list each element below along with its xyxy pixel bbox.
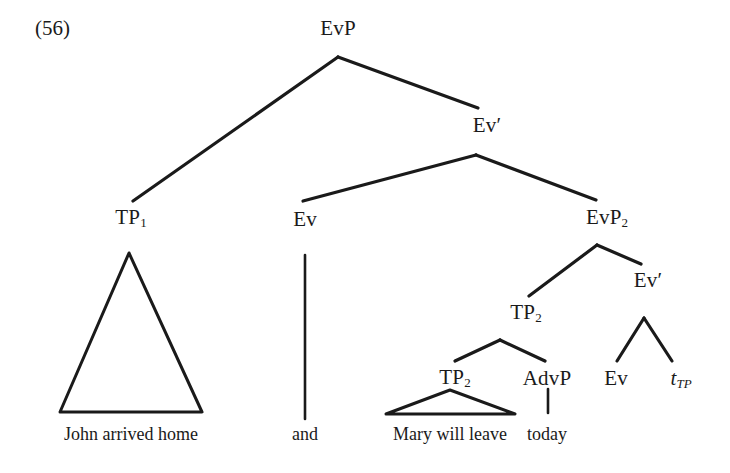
node-trace-tp: tTP: [670, 368, 691, 390]
node-evp-root: EvP: [320, 18, 356, 39]
node-ev-head-upper-label: Ev: [293, 207, 317, 231]
node-evp2-label: EvP: [586, 205, 622, 229]
node-ev-head-lower-label: Ev: [604, 366, 628, 390]
node-tp2-lower: TP2: [439, 367, 470, 389]
terminal-today: today: [527, 425, 567, 443]
triangle-tp1: [60, 253, 202, 412]
terminal-john-arrived-home: John arrived home: [64, 425, 198, 443]
node-tp2-upper: TP2: [510, 302, 541, 324]
node-ev-bar-upper: Ev′: [473, 115, 501, 136]
branch-evp-to-tp1: [133, 57, 338, 201]
branch-evbar-to-ev: [303, 155, 476, 201]
branch-evp-to-evbar: [338, 57, 478, 108]
terminal-mary-will-leave: Mary will leave: [393, 425, 507, 443]
branch-evbar-lower-to-trace: [644, 318, 672, 361]
node-tp1: TP1: [115, 207, 146, 229]
triangle-tp2: [386, 390, 515, 414]
terminal-and: and: [292, 425, 318, 443]
branch-evp2-to-tp2: [529, 245, 597, 296]
branch-evp2-to-evbar-lower: [597, 245, 641, 264]
node-tp2-lower-subscript: 2: [464, 375, 471, 390]
branch-evbar-to-evp2: [476, 155, 596, 200]
node-tp2-lower-label: TP: [439, 365, 464, 389]
node-ev-head-lower: Ev: [604, 368, 628, 389]
node-tp2-upper-label: TP: [510, 300, 535, 324]
node-evp2-subscript: 2: [622, 215, 629, 230]
node-tp1-label: TP: [115, 205, 140, 229]
node-trace-tp-subscript: TP: [676, 376, 691, 391]
node-tp1-subscript: 1: [140, 215, 147, 230]
node-evp2: EvP2: [586, 207, 628, 229]
tree-diagram-canvas: [0, 0, 730, 473]
branch-evbar-lower-to-ev: [617, 318, 644, 361]
node-tp2-upper-subscript: 2: [535, 310, 542, 325]
node-ev-bar-lower-label: Ev: [634, 268, 658, 292]
prime-mark-icon: ′: [497, 113, 502, 137]
node-ev-head-upper: Ev: [293, 209, 317, 230]
node-evp-root-label: EvP: [320, 16, 356, 40]
example-number: (56): [35, 18, 70, 39]
node-advp: AdvP: [523, 368, 572, 389]
prime-mark-icon-lower: ′: [658, 268, 663, 292]
node-ev-bar-upper-label: Ev: [473, 113, 497, 137]
node-advp-label: AdvP: [523, 366, 572, 390]
branch-tp2-to-advp: [500, 340, 545, 361]
node-ev-bar-lower: Ev′: [634, 270, 662, 291]
branch-tp2-to-tp2-lower: [455, 340, 500, 361]
